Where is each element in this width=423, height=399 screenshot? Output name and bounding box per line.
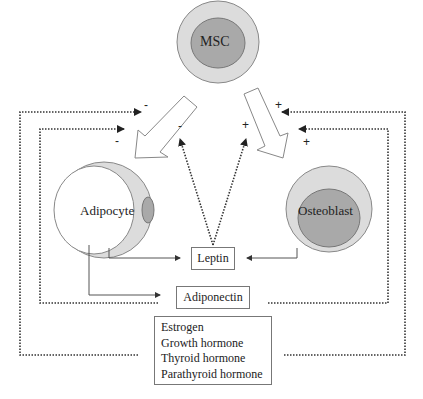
hormone-item: Estrogen [161, 320, 265, 336]
leptin-box: Leptin [191, 247, 235, 270]
msc-label: MSC [200, 34, 230, 50]
hormones-box: Estrogen Growth hormone Thyroid hormone … [154, 316, 272, 385]
diagram-canvas: MSC Adipocyte Osteoblast Leptin Adiponec… [0, 0, 423, 399]
osteoblast-label: Osteoblast [298, 203, 353, 219]
adiponectin-box: Adiponectin [176, 286, 250, 309]
sign-plus: + [303, 136, 310, 148]
hormone-item: Thyroid hormone [161, 351, 265, 367]
leptin-to-osteoblast-dotted [213, 139, 246, 245]
adiponectin-label: Adiponectin [183, 290, 242, 305]
leptin-to-adipocyte-dotted [180, 139, 213, 245]
sign-plus: + [275, 99, 282, 111]
sign-minus: - [115, 135, 119, 147]
hormone-item: Parathyroid hormone [161, 367, 265, 383]
sign-plus: + [242, 119, 249, 131]
sign-minus: - [178, 120, 182, 132]
leptin-label: Leptin [197, 251, 228, 266]
adipocyte-label: Adipocyte [80, 203, 134, 219]
hormone-item: Growth hormone [161, 336, 265, 352]
sign-minus: - [144, 99, 148, 111]
osteoblast-to-leptin-line [247, 248, 297, 258]
